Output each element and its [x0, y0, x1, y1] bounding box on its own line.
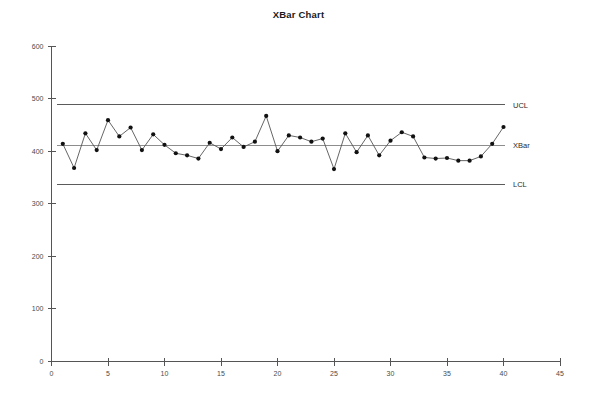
data-point-marker: [309, 140, 313, 144]
data-point-marker: [501, 125, 505, 129]
data-point-marker: [117, 134, 121, 138]
data-point-marker: [219, 147, 223, 151]
data-point-marker: [95, 148, 99, 152]
data-point-marker: [151, 132, 155, 136]
data-point-marker: [321, 136, 325, 140]
x-axis-tick-label: 15: [217, 370, 225, 377]
data-point-marker: [230, 135, 234, 139]
data-point-marker: [174, 151, 178, 155]
series-group: [61, 114, 506, 171]
x-axis-tick-label: 5: [106, 370, 110, 377]
y-axis-tick-label: 600: [32, 43, 44, 50]
data-point-marker: [422, 155, 426, 159]
data-point-marker: [343, 131, 347, 135]
data-point-marker: [287, 133, 291, 137]
data-point-marker: [72, 166, 76, 170]
chart-canvas: 0100200300400500600 051015202530354045 U…: [0, 0, 597, 400]
data-point-marker: [332, 167, 336, 171]
data-point-marker: [468, 159, 472, 163]
data-point-marker: [208, 141, 212, 145]
data-point-marker: [162, 143, 166, 147]
x-axis-tick-label: 10: [161, 370, 169, 377]
data-point-marker: [298, 135, 302, 139]
data-point-marker: [400, 130, 404, 134]
data-point-marker: [242, 145, 246, 149]
data-point-marker: [140, 148, 144, 152]
data-point-marker: [490, 142, 494, 146]
data-point-marker: [83, 131, 87, 135]
y-axis-tick-label: 0: [40, 358, 44, 365]
y-axis-tick-label: 300: [32, 200, 44, 207]
xbar-series-line: [63, 116, 504, 169]
data-point-marker: [185, 153, 189, 157]
x-axis-group: 051015202530354045: [50, 358, 564, 377]
y-axis-tick-label: 200: [32, 253, 44, 260]
data-point-marker: [411, 134, 415, 138]
x-axis-tick-label: 40: [500, 370, 508, 377]
data-point-marker: [434, 156, 438, 160]
data-point-marker: [479, 154, 483, 158]
xbar-limit-label: XBar: [513, 141, 530, 150]
data-point-marker: [366, 133, 370, 137]
control-limit-group: UCLXBarLCL: [57, 101, 531, 189]
x-axis-tick-label: 0: [50, 370, 54, 377]
y-axis-group: 0100200300400500600: [32, 43, 56, 366]
data-point-marker: [196, 156, 200, 160]
data-point-marker: [275, 149, 279, 153]
data-point-marker: [106, 118, 110, 122]
data-point-marker: [388, 139, 392, 143]
data-point-marker: [61, 142, 65, 146]
data-point-marker: [355, 150, 359, 154]
data-point-marker: [129, 125, 133, 129]
x-axis-tick-label: 25: [330, 370, 338, 377]
data-point-marker: [456, 159, 460, 163]
xbar-control-chart: XBar Chart 0100200300400500600 051015202…: [0, 0, 597, 400]
data-point-marker: [377, 153, 381, 157]
data-point-marker: [253, 140, 257, 144]
x-axis-tick-label: 45: [556, 370, 564, 377]
y-axis-tick-label: 100: [32, 305, 44, 312]
y-axis-tick-label: 400: [32, 148, 44, 155]
data-point-marker: [445, 156, 449, 160]
x-axis-tick-label: 30: [387, 370, 395, 377]
y-axis-tick-label: 500: [32, 95, 44, 102]
lcl-limit-label: LCL: [513, 180, 527, 189]
data-point-marker: [264, 114, 268, 118]
ucl-limit-label: UCL: [513, 101, 528, 110]
x-axis-tick-label: 20: [274, 370, 282, 377]
x-axis-tick-label: 35: [443, 370, 451, 377]
